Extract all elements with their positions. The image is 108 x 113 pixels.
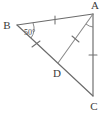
vertex-label-c: C	[90, 100, 97, 112]
vertex-label-b: B	[3, 19, 10, 31]
vertex-label-a: A	[91, 0, 99, 11]
diagram-canvas: B A C D 50°	[0, 0, 108, 113]
angle-label-b: 50°	[24, 28, 35, 37]
geometry-diagram: B A C D 50°	[0, 0, 108, 113]
angle-arc-a	[86, 24, 93, 27]
vertex-label-d: D	[53, 67, 61, 79]
